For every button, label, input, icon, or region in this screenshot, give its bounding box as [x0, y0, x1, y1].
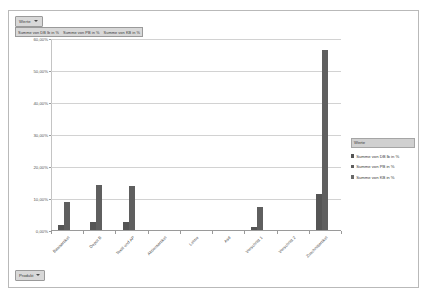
bar-group[interactable] — [51, 39, 83, 230]
legend-item[interactable]: Summe von DB lb in % — [351, 154, 415, 159]
bar[interactable] — [257, 207, 263, 230]
y-tick-mark — [49, 103, 51, 104]
x-tick-mark — [115, 231, 116, 234]
legend: Werte Summe von DB lb in %Summe von PB i… — [351, 138, 415, 180]
legend-swatch — [351, 154, 354, 157]
series-field-button-2[interactable]: Summe von KB in % — [104, 30, 141, 35]
x-axis-label: Zuschnittartikel — [305, 235, 329, 259]
x-tick-mark — [180, 231, 181, 234]
filter-dropdown-icon[interactable] — [34, 19, 39, 24]
y-tick-mark — [49, 231, 51, 232]
x-tick-mark — [244, 231, 245, 234]
y-tick-label: 40,00% — [33, 101, 48, 106]
series-field-buttons-row[interactable]: Summe von DB lb in % Summe von PB in % S… — [15, 27, 143, 37]
x-axis-label: Verschnitt 1 — [245, 235, 264, 254]
legend-label: Summe von DB lb in % — [356, 154, 399, 159]
pivot-chart-frame: Werte Summe von DB lb in % Summe von PB … — [8, 10, 419, 288]
series-field-button-1[interactable]: Summe von PB in % — [63, 30, 100, 35]
filter-dropdown-icon[interactable] — [36, 273, 41, 278]
x-tick-mark — [51, 231, 52, 234]
y-tick-label: 10,00% — [33, 197, 48, 202]
x-axis-label: Asd — [223, 235, 232, 244]
bar-group[interactable] — [180, 39, 212, 230]
x-axis-label: Textil und AP — [114, 235, 135, 256]
bar-group[interactable] — [277, 39, 309, 230]
y-tick-label: 30,00% — [33, 133, 48, 138]
y-tick-mark — [49, 167, 51, 168]
bar-group[interactable] — [115, 39, 147, 230]
value-filter-label: Werte — [19, 19, 31, 24]
legend-label: Summe von PB in % — [356, 164, 394, 169]
x-axis-labels: BasisartikelDepot BTextil und APAktionsa… — [51, 235, 341, 279]
series-field-button-0[interactable]: Summe von DB lb in % — [18, 30, 59, 35]
y-tick-mark — [49, 135, 51, 136]
x-tick-mark — [309, 231, 310, 234]
plot-area — [51, 39, 341, 231]
category-filter-button[interactable]: Produkt — [15, 270, 45, 281]
x-axis-label: Basisartikel — [52, 235, 71, 254]
bar-group[interactable] — [83, 39, 115, 230]
legend-swatch — [351, 165, 354, 168]
y-tick-label: 60,00% — [33, 37, 48, 42]
legend-item[interactable]: Summe von PB in % — [351, 164, 415, 169]
y-tick-mark — [49, 71, 51, 72]
x-tick-mark — [341, 231, 342, 234]
bar-group[interactable] — [244, 39, 276, 230]
bar[interactable] — [96, 185, 102, 230]
bar-group[interactable] — [212, 39, 244, 230]
bar-group[interactable] — [148, 39, 180, 230]
x-axis-label: Verschnitt 2 — [277, 235, 296, 254]
legend-label: Summe von KB in % — [356, 175, 394, 180]
y-tick-mark — [49, 39, 51, 40]
y-tick-label: 0,00% — [36, 229, 48, 234]
x-tick-mark — [83, 231, 84, 234]
legend-swatch — [351, 175, 354, 178]
legend-title: Werte — [351, 138, 415, 148]
bar[interactable] — [322, 50, 328, 230]
x-tick-mark — [277, 231, 278, 234]
y-tick-label: 50,00% — [33, 69, 48, 74]
x-axis-label: Leime — [188, 235, 200, 247]
value-filter-button[interactable]: Werte — [15, 16, 43, 27]
y-axis: 60,00%50,00%40,00%30,00%20,00%10,00%0,00… — [17, 39, 48, 231]
category-filter-label: Produkt — [19, 273, 33, 278]
x-tick-mark — [212, 231, 213, 234]
x-axis-label: Aktionsartikel — [146, 235, 167, 256]
bar[interactable] — [129, 186, 135, 230]
bar-group[interactable] — [309, 39, 341, 230]
legend-item[interactable]: Summe von KB in % — [351, 175, 415, 180]
x-tick-mark — [148, 231, 149, 234]
y-tick-label: 20,00% — [33, 165, 48, 170]
x-axis-label: Depot B — [89, 235, 103, 249]
y-tick-mark — [49, 199, 51, 200]
bar[interactable] — [64, 202, 70, 230]
